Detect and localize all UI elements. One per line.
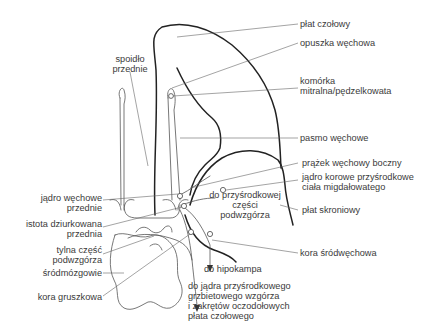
midbrain-outline xyxy=(110,234,182,310)
leader-kora-srodwechowa xyxy=(212,240,298,253)
mitral-cell xyxy=(169,94,174,99)
label-to-medial-hypothalamus: do przyśrodkowej części podwzgórza xyxy=(200,190,290,220)
frontal-inner-curve xyxy=(177,68,221,195)
label-olfactory-tract: pasmo węchowe xyxy=(300,133,368,143)
label-lateral-olfactory-stria: prążek węchowy boczny xyxy=(302,158,402,168)
commissure-pointer xyxy=(130,72,148,166)
left-bulb-flare xyxy=(110,199,134,210)
cell-posterior xyxy=(181,203,186,208)
label-to-thalamus-orbitofrontal: do jądra przyśrodkowego grzbietowego wzg… xyxy=(188,281,291,321)
label-anterior-perforated-substance: istota dziurkowana przednia xyxy=(0,219,102,239)
label-olfactory-bulb: opuszka węchowa xyxy=(300,38,375,48)
entorhinal-curve xyxy=(185,215,236,262)
label-frontal-lobe: płat czołowy xyxy=(300,19,350,29)
label-midbrain: śródmózgowie xyxy=(0,268,102,278)
label-piriform-cortex: kora gruszkowa xyxy=(0,292,102,302)
label-temporal-lobe: płat skroniowy xyxy=(302,205,360,215)
frontal-lobe-outline xyxy=(154,24,281,215)
perforated-substance xyxy=(128,234,192,260)
leader-prazek xyxy=(190,163,298,188)
label-entorhinal-cortex: kora śródwęchowa xyxy=(300,248,377,258)
leader-tylna xyxy=(103,236,154,254)
leader-opuszka xyxy=(172,43,298,88)
label-mitral-cell: komórka mitralna/pędzelkowata xyxy=(300,76,391,96)
left-olfactory-tract xyxy=(119,88,125,205)
label-to-hippocampus: do hipokampa xyxy=(204,264,262,274)
right-olfactory-tract xyxy=(168,89,180,200)
label-anterior-olfactory-nucleus: jądro węchowe przednie xyxy=(0,193,102,213)
label-anterior-commissure: spoidło przednie xyxy=(104,54,156,74)
label-cortical-amygdala: jądro korowe przyśrodkowe ciała migdałow… xyxy=(302,172,414,192)
anterior-olfactory-nucleus xyxy=(136,226,172,233)
leader-kora-gruszkowa xyxy=(103,234,190,296)
cell-piriform xyxy=(188,229,193,234)
cell-aon xyxy=(177,193,182,198)
perforated-stem xyxy=(150,244,162,250)
leader-jadro-korowe xyxy=(226,180,298,190)
label-posterior-hypothalamus: tylna część podwzgórza xyxy=(0,245,102,265)
cell-entorhinal xyxy=(207,231,212,236)
leader-komorka xyxy=(173,88,298,96)
leader-istota xyxy=(103,207,182,227)
anterior-commissure xyxy=(124,205,180,218)
